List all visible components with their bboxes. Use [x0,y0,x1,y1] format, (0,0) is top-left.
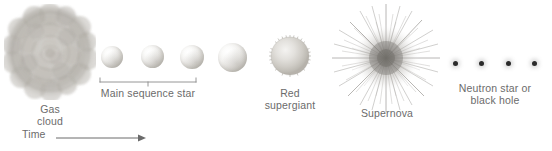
remnant-dot-2 [479,61,484,66]
red-supergiant-illustration [268,34,312,78]
supernova-svg [330,2,442,114]
main-sequence-label: Main sequence star [93,88,203,100]
main-sequence-bracket [99,74,197,86]
stellar-evolution-diagram: Gas cloud Main sequence star [0,0,552,151]
supernova-illustration [330,2,442,114]
gas-cloud-illustration [4,4,96,100]
main-sequence-star-3 [180,45,204,69]
time-arrow-svg [56,133,146,143]
main-sequence-star-4 [218,43,247,72]
red-supergiant-label: Red supergiant [255,88,325,111]
main-sequence-star-2 [141,45,164,68]
main-sequence-star-1 [101,46,123,68]
remnant-label: Neutron star or black hole [439,83,551,106]
remnant-dot-3 [506,61,511,66]
gas-cloud-svg [4,4,96,100]
remnant-dot-4 [532,61,537,66]
supernova-label: Supernova [347,108,427,120]
time-axis-label: Time [22,128,46,140]
red-supergiant-svg [268,34,312,78]
remnant-dot-1 [453,61,458,66]
time-arrow [56,129,146,139]
gas-cloud-label: Gas cloud [20,104,80,127]
